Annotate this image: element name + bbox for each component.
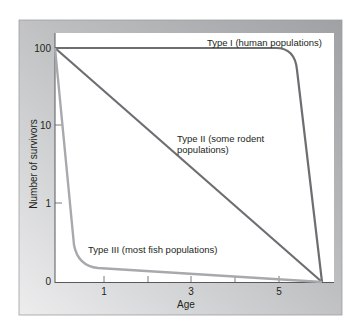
x-tick-label-3: 3 bbox=[188, 286, 194, 297]
x-axis-title: Age bbox=[177, 299, 195, 310]
survivorship-chart: 100 10 1 0 1 3 5 Age Number of survivors… bbox=[0, 0, 360, 329]
y-tick-label-10: 10 bbox=[40, 120, 52, 131]
type-3-label: Type III (most fish populations) bbox=[88, 244, 217, 255]
type-2-label-line2: populations) bbox=[177, 144, 229, 155]
y-tick-label-0: 0 bbox=[45, 276, 51, 287]
type-2-label-line1: Type II (some rodent bbox=[177, 133, 264, 144]
x-tick-label-1: 1 bbox=[101, 286, 107, 297]
y-axis-title: Number of survivors bbox=[28, 119, 39, 208]
y-tick-label-100: 100 bbox=[34, 43, 51, 54]
y-tick-label-1: 1 bbox=[45, 198, 51, 209]
x-tick-label-5: 5 bbox=[276, 286, 282, 297]
type-1-label: Type I (human populations) bbox=[207, 37, 322, 48]
